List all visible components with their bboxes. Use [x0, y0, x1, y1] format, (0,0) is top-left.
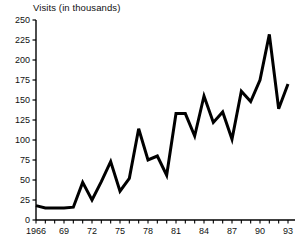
chart-container: Visits (in thousands) 025507510012515017…: [0, 0, 307, 243]
x-axis-tick-label: 93: [283, 227, 293, 236]
x-axis-tick-label: 84: [199, 227, 209, 236]
x-axis-tick-label: 69: [59, 227, 69, 236]
data-series-visits: [36, 34, 288, 208]
chart-plot-area: [0, 0, 307, 243]
x-axis-tick-label: 75: [115, 227, 125, 236]
x-axis-tick-label: 78: [143, 227, 153, 236]
x-axis: [36, 220, 295, 224]
x-axis-tick-label: 87: [227, 227, 237, 236]
x-axis-tick-label: 81: [171, 227, 181, 236]
y-axis: [33, 20, 37, 220]
x-axis-tick-label: 72: [87, 227, 97, 236]
x-axis-tick-label: 90: [255, 227, 265, 236]
x-axis-tick-label: 1966: [26, 227, 46, 236]
